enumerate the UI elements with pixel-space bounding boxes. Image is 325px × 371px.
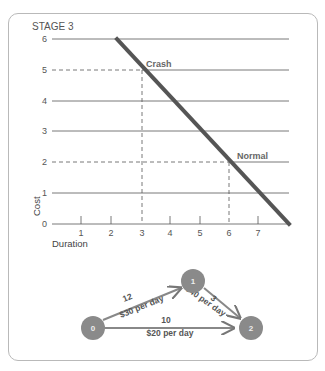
edge-0-2-cost: $20 per day [147,328,194,338]
y-axis-label: Cost [31,196,42,216]
x-tick-4: 4 [167,228,172,238]
y-tick-4: 4 [42,96,47,106]
node-0: 0 [81,316,105,340]
stage-3-figure: STAGE 3 6 5 4 3 2 1 0 1 2 3 [0,0,325,371]
y-tick-labels: 6 5 4 3 2 1 0 [42,34,47,229]
normal-label: Normal [237,151,268,161]
x-tick-2: 2 [108,228,113,238]
edge-0-2-duration: 10 [161,315,171,325]
reference-dashed-lines [52,70,229,224]
y-tick-1: 1 [42,188,47,198]
node-2: 2 [239,316,263,340]
x-axis-label: Duration [52,238,88,249]
y-tick-3: 3 [42,126,47,136]
x-tick-1: 1 [78,228,83,238]
stage-title: STAGE 3 [32,21,74,32]
y-tick-5: 5 [42,65,47,75]
svg-text:2: 2 [249,324,254,333]
crash-label: Crash [146,59,172,69]
y-tick-6: 6 [42,34,47,44]
edge-0-1-duration: 12 [121,291,134,304]
x-ticks [81,216,258,224]
svg-text:0: 0 [91,324,96,333]
node-1: 1 [181,269,205,293]
x-tick-5: 5 [197,228,202,238]
cost-duration-line [117,39,289,224]
x-tick-7: 7 [255,228,260,238]
x-tick-6: 6 [226,228,231,238]
x-tick-3: 3 [139,228,144,238]
y-tick-0: 0 [42,219,47,229]
svg-text:1: 1 [191,277,196,286]
x-tick-labels: 1 2 3 4 5 6 7 [78,228,260,238]
y-tick-2: 2 [42,157,47,167]
